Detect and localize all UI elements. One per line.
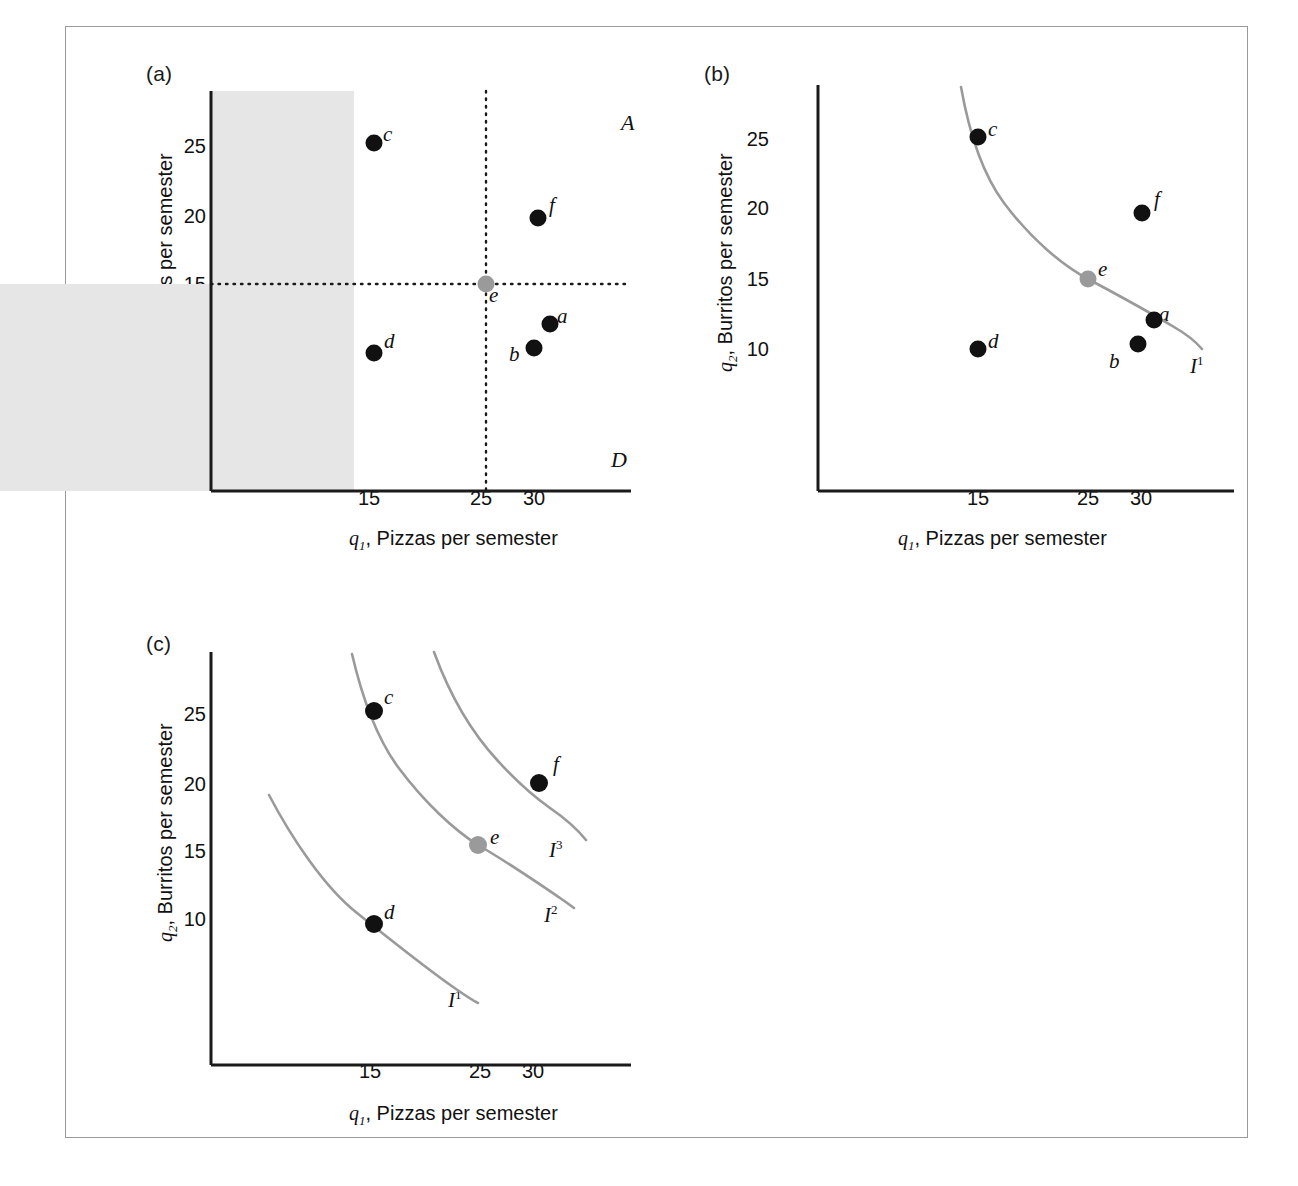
panel-c-curve-I1 — [269, 795, 478, 1003]
panel-b-curve-I1 — [961, 87, 1202, 349]
panel-b-point-a — [1146, 312, 1163, 329]
panel-b-point-d — [970, 341, 987, 358]
panel-a-plot — [66, 27, 686, 557]
panel-c-point-e — [469, 836, 487, 854]
panel-a-point-a — [542, 316, 559, 333]
panel-c-point-d — [365, 915, 383, 933]
panel-c: (c) q2, Burritos per semester q1, Pizzas… — [66, 597, 686, 1137]
panel-c-point-f — [530, 774, 548, 792]
panel-b-point-e — [1080, 271, 1097, 288]
panel-a-point-b — [526, 340, 543, 357]
panel-b-point-c — [970, 129, 987, 146]
panel-b-plot — [686, 27, 1246, 557]
panel-a-point-f — [530, 210, 547, 227]
panel-c-plot — [66, 597, 686, 1137]
panel-b-point-b — [1130, 336, 1147, 353]
figure-frame: (a) q2, Burritos per semester q1, Pizzas… — [65, 26, 1248, 1138]
panel-a: (a) q2, Burritos per semester q1, Pizzas… — [66, 27, 686, 557]
panel-a-point-d — [366, 345, 383, 362]
panel-b: (b) q2, Burritos per semester q1, Pizzas… — [686, 27, 1246, 557]
panel-b-point-f — [1134, 205, 1151, 222]
panel-c-curve-I3 — [434, 652, 586, 840]
shaded-region-A — [211, 91, 354, 284]
panel-c-point-c — [365, 702, 383, 720]
shaded-region-B — [0, 284, 354, 491]
panel-a-point-c — [366, 135, 383, 152]
panel-a-point-e — [478, 276, 495, 293]
